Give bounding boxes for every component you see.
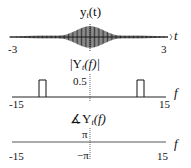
- magnitude-title-arg: (f)|: [84, 56, 100, 71]
- magnitude-title-pre: |Y: [70, 56, 82, 71]
- magnitude-tick-left: -15: [9, 99, 24, 110]
- time-title-arg: (t): [89, 4, 101, 19]
- phase-tick-left: -15: [9, 151, 24, 162]
- phase-panel-graphics: [12, 128, 166, 160]
- magnitude-tick-right: 15: [159, 99, 170, 110]
- phase-title-arg: (f): [94, 111, 106, 126]
- figure-canvas: [0, 0, 191, 168]
- magnitude-panel-graphics: [12, 74, 166, 101]
- time-tick-right: 3: [161, 44, 167, 55]
- time-tick-left: -3: [8, 44, 17, 55]
- phase-axis-label: f: [174, 138, 178, 149]
- phase-tick-right: 15: [157, 151, 168, 162]
- phase-plot-title: ∡Yt(f): [70, 112, 106, 129]
- magnitude-ytick: 0.5: [73, 76, 87, 87]
- magnitude-axis-label: f: [174, 87, 178, 98]
- time-panel-graphics: [10, 24, 172, 52]
- magnitude-pulse-negative: [39, 80, 46, 97]
- magnitude-plot-title: |Yt(f)|: [70, 57, 100, 74]
- time-axis-arrow-icon: [170, 34, 172, 40]
- magnitude-pulse-positive: [137, 80, 144, 97]
- phase-title-pre: ∡Y: [70, 111, 91, 126]
- time-axis-label: t: [174, 30, 178, 41]
- time-plot-title: yt(t): [80, 5, 101, 22]
- phase-ytick-top: π: [82, 129, 88, 140]
- phase-ytick-bottom: −π: [77, 150, 89, 161]
